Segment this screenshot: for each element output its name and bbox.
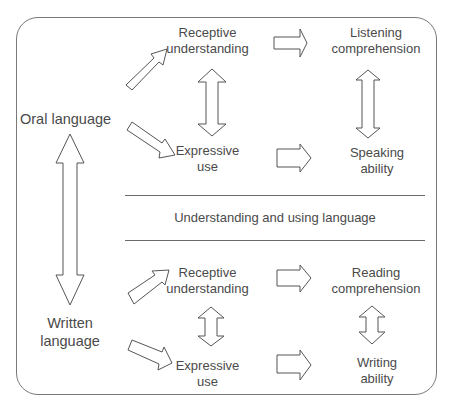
oral-receptive-expressive-double-arrow-icon xyxy=(198,69,226,136)
listening-speaking-double-arrow-icon xyxy=(356,70,380,138)
written-receptive-expressive-double-arrow-icon xyxy=(198,307,224,346)
written-to-receptive-arrow-icon xyxy=(128,270,169,304)
oral-written-double-arrow-icon xyxy=(56,134,84,305)
oral-to-expressive-arrow-icon xyxy=(127,122,175,158)
receptive-to-reading-arrow-icon xyxy=(277,265,311,292)
written-to-expressive-arrow-icon xyxy=(128,340,172,370)
reading-writing-double-arrow-icon xyxy=(359,306,385,344)
oral-to-receptive-arrow-icon xyxy=(126,49,167,90)
expressive-to-writing-arrow-icon xyxy=(277,350,311,380)
expressive-to-speaking-arrow-icon xyxy=(277,144,311,172)
receptive-to-listening-arrow-icon xyxy=(274,29,307,57)
arrows-layer xyxy=(0,0,452,413)
